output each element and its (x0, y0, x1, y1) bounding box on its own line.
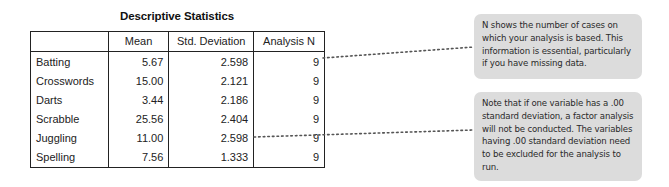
std-cell: 1.333 (169, 148, 254, 168)
connector-line-analysis-n (323, 47, 474, 58)
table-row: Darts 3.44 2.186 9 (31, 91, 325, 110)
column-header-std-deviation: Std. Deviation (169, 32, 254, 52)
table-row: Juggling 11.00 2.598 9 (31, 129, 325, 148)
mean-cell: 5.67 (108, 52, 169, 73)
std-cell: 2.404 (169, 110, 254, 129)
n-cell: 9 (254, 91, 325, 110)
row-label: Crosswords (31, 72, 109, 91)
column-header-blank (31, 32, 109, 52)
n-cell: 9 (254, 110, 325, 129)
std-cell: 2.598 (169, 52, 254, 73)
row-label: Juggling (31, 129, 109, 148)
table-row: Crosswords 15.00 2.121 9 (31, 72, 325, 91)
n-cell: 9 (254, 148, 325, 168)
table-title: Descriptive Statistics (30, 10, 324, 22)
row-label: Scrabble (31, 110, 109, 129)
mean-cell: 3.44 (108, 91, 169, 110)
n-cell: 9 (254, 52, 325, 73)
column-header-analysis-n: Analysis N (254, 32, 325, 52)
std-cell: 2.598 (169, 129, 254, 148)
std-cell: 2.186 (169, 91, 254, 110)
callout-std-deviation-note: Note that if one variable has a .00 stan… (474, 92, 642, 181)
row-label: Spelling (31, 148, 109, 168)
row-label: Batting (31, 52, 109, 73)
n-cell: 9 (254, 72, 325, 91)
mean-cell: 15.00 (108, 72, 169, 91)
callout-analysis-n-note: N shows the number of cases on which you… (474, 14, 642, 79)
descriptive-statistics-table: Mean Std. Deviation Analysis N Batting 5… (30, 31, 325, 168)
table-header-row: Mean Std. Deviation Analysis N (31, 32, 325, 52)
mean-cell: 11.00 (108, 129, 169, 148)
column-header-mean: Mean (108, 32, 169, 52)
mean-cell: 25.56 (108, 110, 169, 129)
table-row: Scrabble 25.56 2.404 9 (31, 110, 325, 129)
n-cell: 9 (254, 129, 325, 148)
table-row: Spelling 7.56 1.333 9 (31, 148, 325, 168)
row-label: Darts (31, 91, 109, 110)
std-cell: 2.121 (169, 72, 254, 91)
mean-cell: 7.56 (108, 148, 169, 168)
table-row: Batting 5.67 2.598 9 (31, 52, 325, 73)
